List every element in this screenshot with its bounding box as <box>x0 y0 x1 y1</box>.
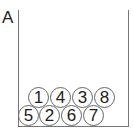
ball: 6 <box>61 105 82 126</box>
panel-label: A <box>2 9 13 26</box>
ball: 5 <box>18 105 39 126</box>
ball: 2 <box>39 105 60 126</box>
ball: 7 <box>83 105 104 126</box>
